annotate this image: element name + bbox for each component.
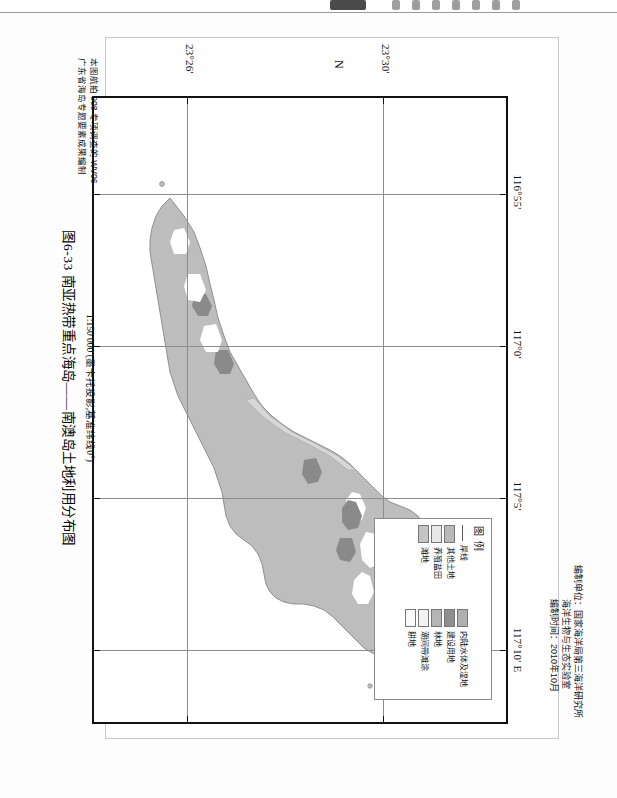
legend-item: 潮间带滩涂 bbox=[418, 609, 430, 693]
legend-swatch-inland-water-wetland bbox=[457, 609, 468, 627]
figure-caption: 图6-33 南亚热带重点海岛——南澳岛土地利用分布图 bbox=[60, 230, 80, 545]
axis-tick bbox=[383, 716, 384, 722]
scan-header-rule bbox=[0, 12, 617, 13]
legend-label: 内陆水体及湿地 bbox=[459, 631, 467, 687]
legend-title: 图 例 bbox=[472, 526, 487, 693]
legend-label: 耕地 bbox=[407, 631, 415, 647]
map-neatline: 图 例 岸线 其他土地 bbox=[92, 96, 508, 724]
legend-swatch-beach-flat bbox=[418, 525, 429, 543]
scan-artifact-mark bbox=[330, 0, 366, 10]
axis-tick bbox=[500, 650, 506, 651]
legend-label: 岸线 bbox=[459, 545, 467, 561]
source-line-1: 本图航拍 908 专项调查的 WV06 bbox=[87, 58, 98, 183]
scan-artifact-mark bbox=[452, 0, 460, 10]
graticule-meridian bbox=[94, 194, 506, 195]
offshore-islet bbox=[159, 182, 164, 187]
legend-swatch-shoreline bbox=[462, 525, 463, 541]
legend-swatch-other-land bbox=[444, 525, 455, 543]
longitude-label-116-55: 116°55' bbox=[512, 175, 524, 210]
legend-item: 建设用地 bbox=[444, 609, 456, 693]
legend-label: 滩地 bbox=[420, 547, 428, 563]
scan-top-margin bbox=[0, 0, 617, 12]
legend-item: 岸线 bbox=[457, 525, 469, 609]
axis-tick bbox=[500, 498, 506, 499]
figure-outer-frame: 编制单位：国家海洋局第三海洋研究所 海洋生物与生态实验室 编制时间：2010年1… bbox=[105, 37, 559, 739]
legend-item: 滩地 bbox=[418, 525, 430, 609]
axis-tick bbox=[94, 650, 100, 651]
production-date: 编制时间：2010年10月 bbox=[547, 565, 559, 718]
axis-tick bbox=[187, 716, 188, 722]
map-legend: 图 例 岸线 其他土地 bbox=[374, 518, 492, 700]
producer-line-2: 海洋生物与生态实验室 bbox=[559, 565, 571, 718]
producer-line-1: 编制单位：国家海洋局第三海洋研究所 bbox=[571, 565, 583, 718]
legend-swatch-aquaculture-saltpan bbox=[431, 525, 442, 543]
legend-swatch-forest bbox=[431, 609, 442, 627]
north-arrow-label: N bbox=[331, 60, 346, 69]
legend-label: 其他土地 bbox=[446, 547, 454, 579]
legend-item: 林地 bbox=[431, 609, 443, 693]
scan-artifact-mark bbox=[512, 0, 520, 10]
graticule-parallel bbox=[187, 98, 188, 722]
scan-artifact-mark bbox=[492, 0, 500, 10]
scan-artifact-mark bbox=[472, 0, 480, 10]
offshore-islet bbox=[367, 684, 371, 688]
legend-item: 养殖盐田 bbox=[431, 525, 443, 609]
latitude-label-23-26: 23°26' bbox=[184, 44, 196, 74]
axis-tick bbox=[500, 346, 506, 347]
legend-label: 建设用地 bbox=[446, 631, 454, 663]
axis-tick bbox=[94, 194, 100, 195]
legend-swatch-intertidal-flat bbox=[418, 609, 429, 627]
longitude-label-117-5: 117°5' bbox=[512, 481, 524, 510]
credits-block: 编制单位：国家海洋局第三海洋研究所 海洋生物与生态实验室 编制时间：2010年1… bbox=[547, 565, 583, 718]
legend-column-left: 岸线 其他土地 养殖盐田 bbox=[405, 525, 469, 609]
legend-item: 耕地 bbox=[405, 609, 417, 693]
legend-label: 林地 bbox=[433, 631, 441, 647]
figure-page: 编制单位：国家海洋局第三海洋研究所 海洋生物与生态实验室 编制时间：2010年1… bbox=[29, 19, 589, 779]
legend-item: 其他土地 bbox=[444, 525, 456, 609]
graticule-meridian bbox=[94, 498, 506, 499]
legend-column-right: 内陆水体及湿地 建设用地 林地 bbox=[405, 609, 469, 693]
data-source-note: 本图航拍 908 专项调查的 WV06 广东省海岛专题要素成果编制 bbox=[76, 58, 99, 183]
axis-tick bbox=[94, 498, 100, 499]
scan-artifact-mark bbox=[432, 0, 440, 10]
scan-artifact-mark bbox=[412, 0, 420, 10]
legend-item: 内陆水体及湿地 bbox=[457, 609, 469, 693]
axis-tick bbox=[383, 98, 384, 104]
latitude-label-23-30: 23°30' bbox=[380, 44, 392, 74]
longitude-label-117-10-E: 117°10' E bbox=[512, 628, 524, 673]
map-scale-statement: 1:150 000 (墨卡托投影,基准纬线0°) bbox=[84, 314, 98, 462]
legend-swatch-builtup bbox=[444, 609, 455, 627]
source-line-2: 广东省海岛专题要素成果编制 bbox=[76, 58, 87, 183]
axis-tick bbox=[187, 98, 188, 104]
legend-label: 潮间带滩涂 bbox=[420, 631, 428, 671]
scan-artifact-mark bbox=[392, 0, 400, 10]
graticule-meridian bbox=[94, 346, 506, 347]
legend-label: 养殖盐田 bbox=[433, 547, 441, 579]
legend-columns: 岸线 其他土地 养殖盐田 bbox=[405, 525, 469, 693]
legend-swatch-cropland bbox=[405, 609, 416, 627]
axis-tick bbox=[500, 194, 506, 195]
scanned-page: 编制单位：国家海洋局第三海洋研究所 海洋生物与生态实验室 编制时间：2010年1… bbox=[0, 0, 617, 798]
longitude-label-117-0: 117°0' bbox=[512, 329, 524, 358]
